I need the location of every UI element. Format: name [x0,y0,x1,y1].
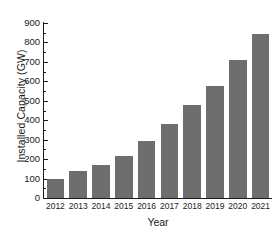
y-axis-major-tick [44,198,48,199]
y-axis-tick-label: 300 [10,135,40,145]
bar-series-installed-capacity [44,23,272,198]
x-axis-tick-label: 2020 [226,200,249,212]
x-axis-tick-label: 2016 [135,200,158,212]
y-axis-tick-label-group: 0100200300400500600700800900 [10,16,40,200]
bar [47,179,65,198]
x-axis-tick-label: 2015 [112,200,135,212]
bar [115,156,133,198]
x-axis-tick-label: 2018 [181,200,204,212]
x-axis-tick-label-group: 2012201320142015201620172018201920202021 [44,200,272,212]
y-axis-tick-label: 100 [10,174,40,184]
x-axis-title: Year [44,215,272,229]
bar [206,86,224,198]
bar-chart-figure: Installed Capacity (GW) 0100200300400500… [0,0,279,237]
x-axis-tick-label: 2021 [249,200,272,212]
bar [252,34,270,198]
y-axis-tick-label: 600 [10,76,40,86]
bar [161,124,179,198]
y-axis-tick-label: 400 [10,115,40,125]
y-axis-tick-label: 900 [10,18,40,28]
bar [92,165,110,198]
y-axis-tick-label: 200 [10,154,40,164]
bar [183,105,201,198]
y-axis-tick-label: 800 [10,37,40,47]
x-axis-tick-label: 2013 [67,200,90,212]
bar [69,171,87,198]
x-axis-tick-label: 2019 [204,200,227,212]
plot-area [44,23,272,198]
x-axis-tick-label: 2014 [90,200,113,212]
x-axis-line [43,198,272,199]
y-axis-tick-label: 500 [10,96,40,106]
x-axis-tick-label: 2017 [158,200,181,212]
bar [138,141,156,198]
y-axis-tick-label: 0 [10,193,40,203]
y-axis-tick-label: 700 [10,57,40,67]
x-axis-tick-label: 2012 [44,200,67,212]
bar [229,60,247,198]
